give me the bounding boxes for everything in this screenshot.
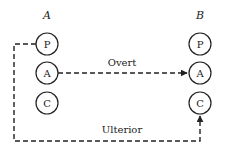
svg-text:P: P — [197, 39, 204, 50]
ego-state-a-adult: A — [36, 62, 58, 84]
ego-state-b-child: C — [189, 92, 211, 114]
ego-state-a-parent: P — [36, 33, 58, 55]
svg-text:C: C — [43, 98, 51, 109]
svg-text:A: A — [42, 68, 51, 79]
person-a-label: A — [42, 9, 51, 22]
transaction-diagram: A B P A C P A C Overt Ulterior — [0, 0, 227, 153]
overt-label: Overt — [108, 57, 137, 68]
svg-text:C: C — [196, 98, 204, 109]
person-b-label: B — [195, 9, 204, 22]
ego-state-a-child: C — [36, 92, 58, 114]
ego-state-b-parent: P — [189, 33, 211, 55]
ego-state-b-adult: A — [189, 62, 211, 84]
svg-text:P: P — [44, 39, 51, 50]
svg-text:A: A — [195, 68, 204, 79]
ulterior-label: Ulterior — [102, 124, 143, 135]
